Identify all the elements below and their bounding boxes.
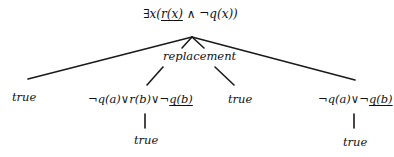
leaf-true-1: true [12,92,36,104]
edge-label-replacement: replacement [163,51,236,63]
edge-replacement-child2 [147,67,163,85]
node-formula-4-selected-literal: q(b) [369,92,393,106]
node-formula-4-prefix: ¬q(a)∨¬ [318,92,369,106]
node-formula-4: ¬q(a)∨¬q(b) [318,94,393,106]
root-formula-selected-literal: r(x) [161,7,183,21]
tree-edges [0,0,394,157]
root-formula-prefix: ∃x( [143,7,161,21]
node-formula-2-selected-literal: q(b) [169,92,193,106]
root-formula-suffix: ∧ ¬q(x)) [183,7,238,21]
leaf-true-under-node-4: true [343,137,367,149]
node-formula-2: ¬q(a)∨r(b)∨¬q(b) [88,94,193,106]
node-formula-2-prefix: ¬q(a)∨r(b)∨¬ [88,92,169,106]
leaf-true-3: true [228,94,252,106]
leaf-true-under-node-2: true [134,135,158,147]
diagram-canvas: ∃x(r(x) ∧ ¬q(x)) replacement true ¬q(a)∨… [0,0,394,157]
edge-replacement-leaf3 [215,67,234,85]
root-formula: ∃x(r(x) ∧ ¬q(x)) [143,8,238,20]
